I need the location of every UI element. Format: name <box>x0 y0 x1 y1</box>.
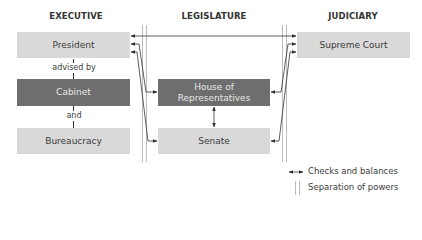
arrow-president-senate <box>131 52 157 141</box>
arrow-supreme-court-senate <box>271 52 296 141</box>
legend-separation-icon <box>295 181 300 195</box>
arrow-supreme-court-house <box>271 44 296 92</box>
arrow-president-house <box>131 44 157 92</box>
legend-separation-label: Separation of powers <box>308 182 399 192</box>
legend-checks-label: Checks and balances <box>308 166 398 176</box>
